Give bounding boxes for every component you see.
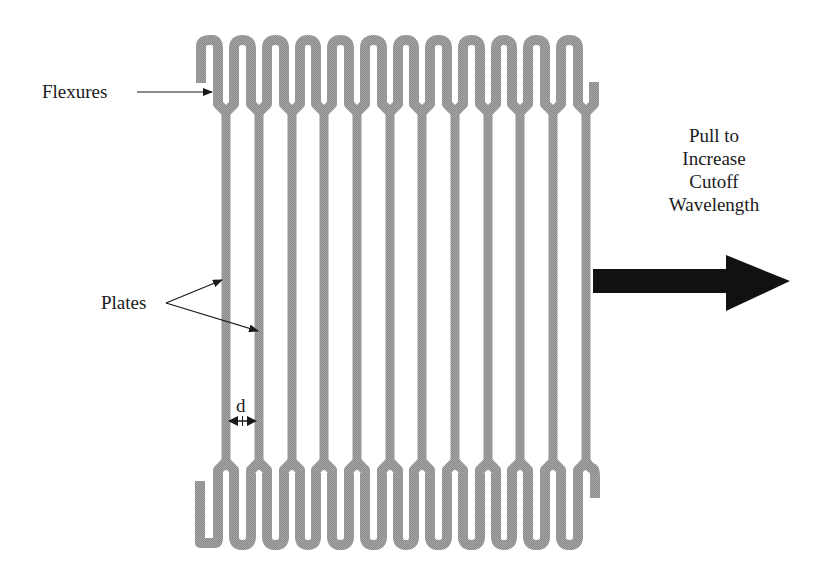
pull-label-line-4: Wavelength: [640, 193, 788, 216]
plates-pointer-arrow-1: [166, 280, 222, 303]
pull-direction-arrow: [593, 255, 790, 311]
top-flexure: [201, 40, 594, 112]
spacing-label: d: [236, 396, 246, 415]
plate: [418, 110, 427, 466]
bottom-flexure: [200, 462, 595, 545]
plate: [255, 110, 264, 466]
plate: [484, 110, 493, 466]
plate: [222, 110, 231, 466]
flexures-label: Flexures: [42, 82, 107, 101]
plate: [353, 110, 362, 466]
pull-instruction-label: Pull to Increase Cutoff Wavelength: [640, 124, 788, 216]
plate: [320, 110, 329, 466]
pull-label-line-2: Increase: [640, 147, 788, 170]
plate: [451, 110, 460, 466]
plate: [582, 110, 591, 466]
plates-pointer-arrow-2: [166, 303, 258, 331]
tunable-plate-array-diagram: [0, 0, 827, 566]
plate: [288, 110, 297, 466]
plates-label: Plates: [101, 293, 146, 312]
pull-label-line-1: Pull to: [640, 124, 788, 147]
plates: [222, 110, 591, 466]
spacing-dimension-arrow: [228, 416, 257, 426]
bottom-flexure-path: [200, 462, 595, 545]
plate: [516, 110, 525, 466]
plate: [549, 110, 558, 466]
pull-label-line-3: Cutoff: [640, 170, 788, 193]
plate: [386, 110, 395, 466]
top-flexure-path: [201, 40, 594, 112]
